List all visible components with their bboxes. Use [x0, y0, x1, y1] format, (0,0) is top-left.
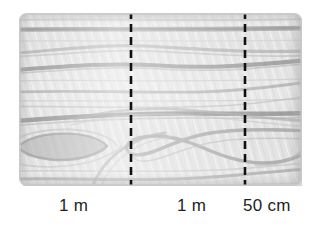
board-surface: [19, 13, 302, 186]
wooden-board: [19, 13, 302, 186]
measurement-label-segment-1: 1 m: [59, 196, 88, 216]
diagram-canvas: 1 m 1 m 50 cm: [0, 0, 319, 234]
board-illustration: [19, 13, 302, 186]
measurement-label-segment-3: 50 cm: [243, 196, 291, 216]
measurement-labels: 1 m 1 m 50 cm: [0, 196, 319, 226]
measurement-label-segment-2: 1 m: [177, 196, 206, 216]
